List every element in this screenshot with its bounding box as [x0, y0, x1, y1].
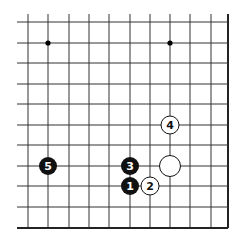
black-stone-3: 3: [121, 157, 139, 175]
white-stone: [160, 156, 181, 177]
stones: 12345: [39, 116, 181, 195]
white-stone-2: 2: [141, 177, 159, 195]
move-number: 2: [146, 180, 154, 193]
move-number: 5: [44, 160, 52, 173]
black-stone-1: 1: [121, 177, 139, 195]
move-number: 3: [126, 160, 134, 173]
star-point: [167, 40, 172, 45]
stone-disc: [160, 156, 181, 177]
star-point: [45, 40, 50, 45]
move-number: 1: [126, 180, 134, 193]
grid-lines: [17, 14, 228, 228]
go-board: 12345: [0, 0, 244, 242]
black-stone-5: 5: [39, 157, 57, 175]
white-stone-4: 4: [161, 116, 179, 134]
move-number: 4: [166, 119, 174, 132]
